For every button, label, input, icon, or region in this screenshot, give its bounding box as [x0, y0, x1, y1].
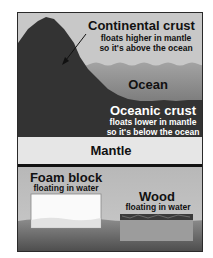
diagram-frame: Continental crust floats higher in mantl…	[17, 12, 203, 252]
divider	[18, 164, 203, 167]
continental-crust-line1: floats higher in mantle	[86, 34, 203, 43]
mantle-label: Mantle	[18, 144, 203, 157]
wood-top	[120, 214, 193, 220]
continental-crust-line2: so it's above the ocean	[86, 44, 203, 53]
continental-crust-title: Continental crust	[88, 19, 195, 32]
wood-sub: floating in water	[116, 203, 200, 212]
oceanic-crust-title: Oceanic crust	[108, 104, 198, 117]
foam-block-sub: floating in water	[24, 184, 108, 193]
ocean-label: Ocean	[118, 78, 178, 91]
oceanic-crust-line1: floats lower in mantle	[98, 118, 203, 127]
oceanic-crust-line2: so it's below the ocean	[98, 128, 203, 137]
